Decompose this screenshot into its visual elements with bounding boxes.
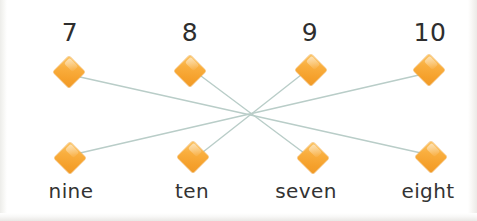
link-7-eight[interactable]: [80, 77, 421, 153]
node-bottom-eight[interactable]: [415, 141, 448, 174]
link-9-ten[interactable]: [203, 75, 301, 152]
node-top-7[interactable]: [53, 56, 86, 89]
scan-edge-right: [468, 0, 477, 221]
node-bottom-ten[interactable]: [177, 141, 210, 174]
node-top-8[interactable]: [174, 55, 207, 88]
link-10-nine[interactable]: [80, 75, 419, 153]
bottom-label-nine: nine: [49, 181, 94, 201]
node-top-9[interactable]: [295, 54, 328, 87]
link-8-seven[interactable]: [201, 76, 304, 153]
bottom-label-ten: ten: [175, 181, 209, 201]
node-top-10[interactable]: [413, 54, 446, 87]
top-label-7: 7: [62, 20, 78, 45]
bottom-label-eight: eight: [401, 181, 454, 201]
bottom-label-seven: seven: [275, 181, 337, 201]
scan-edge-bottom: [0, 213, 477, 221]
node-bottom-seven[interactable]: [297, 142, 330, 175]
top-label-10: 10: [414, 20, 447, 45]
top-label-9: 9: [302, 20, 318, 45]
top-label-8: 8: [182, 20, 198, 45]
node-bottom-nine[interactable]: [54, 142, 87, 175]
matching-exercise-canvas: 7 8 9 10 nine ten seven eight: [0, 0, 477, 221]
scan-edge-left: [0, 0, 7, 221]
